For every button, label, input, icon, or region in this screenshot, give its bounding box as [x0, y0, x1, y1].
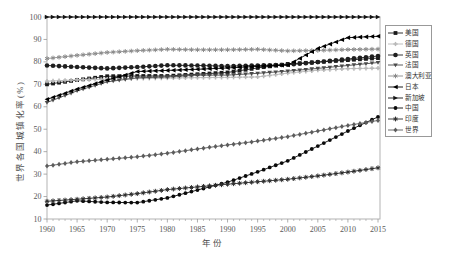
legend-label: 中国 — [405, 104, 418, 114]
legend-label: 法国 — [405, 61, 418, 71]
legend-label: 世界 — [405, 125, 418, 135]
x-tick-label: 2015 — [370, 225, 386, 234]
x-tick-label: 1980 — [159, 225, 175, 234]
series-世界 — [45, 118, 380, 169]
legend-item-法国: 法国 — [388, 60, 429, 70]
legend-item-德国: 德国 — [388, 39, 429, 49]
x-tick-label: 1995 — [250, 225, 266, 234]
legend-label: 美国 — [405, 28, 418, 38]
legend-label: 澳大利亚 — [405, 71, 432, 81]
legend-item-世界: 世界 — [388, 125, 429, 135]
series-新加坡 — [45, 15, 381, 20]
legend-label: 印度 — [405, 114, 418, 124]
legend-label: 英国 — [405, 50, 418, 60]
x-tick-label: 1985 — [189, 225, 205, 234]
legend-marker-icon — [388, 61, 403, 69]
x-tick-label: 2000 — [280, 225, 296, 234]
y-tick-label: 50 — [34, 125, 42, 134]
x-axis-title: 年份 — [202, 236, 224, 248]
y-tick-label: 80 — [34, 57, 42, 66]
legend-item-中国: 中国 — [388, 103, 429, 113]
legend-item-日本: 日本 — [388, 82, 429, 92]
x-tick-label: 1975 — [129, 225, 145, 234]
x-tick-label: 1970 — [99, 225, 115, 234]
legend-marker-icon — [388, 83, 403, 91]
plot-frame — [47, 17, 380, 219]
legend-item-英国: 英国 — [388, 50, 429, 60]
legend-marker-icon — [388, 126, 403, 134]
x-tick-label: 1990 — [220, 225, 236, 234]
y-tick-label: 100 — [30, 13, 42, 22]
legend-marker-icon — [388, 115, 403, 123]
urbanization-rate-line-chart: 1960196519701975198019851990199520002005… — [0, 0, 470, 262]
y-tick-label: 90 — [34, 35, 42, 44]
y-tick-label: 40 — [34, 147, 42, 156]
y-axis-title: 世界各国城镇化率(%) — [13, 81, 25, 182]
legend-marker-icon — [388, 51, 403, 59]
chart-legend: 美国德国英国法国澳大利亚日本新加坡中国印度世界 — [385, 25, 432, 137]
legend-item-新加坡: 新加坡 — [388, 93, 429, 103]
legend-marker-icon — [388, 29, 403, 37]
x-tick-label: 1965 — [69, 225, 85, 234]
x-tick-label: 2010 — [340, 225, 356, 234]
legend-marker-icon — [388, 94, 403, 102]
legend-marker-icon — [388, 72, 403, 80]
series-印度 — [45, 165, 380, 203]
legend-marker-icon — [388, 40, 403, 48]
legend-item-印度: 印度 — [388, 114, 429, 124]
y-tick-label: 60 — [34, 102, 42, 111]
x-tick-label: 2005 — [310, 225, 326, 234]
y-tick-label: 10 — [34, 215, 42, 224]
legend-label: 日本 — [405, 82, 418, 92]
legend-item-美国: 美国 — [388, 28, 429, 38]
legend-label: 新加坡 — [405, 93, 425, 103]
legend-item-澳大利亚: 澳大利亚 — [388, 71, 429, 81]
legend-label: 德国 — [405, 39, 418, 49]
legend-marker-icon — [388, 104, 403, 112]
x-tick-label: 1960 — [39, 225, 55, 234]
y-tick-label: 70 — [34, 80, 42, 89]
y-tick-label: 20 — [34, 192, 42, 201]
y-tick-label: 30 — [34, 170, 42, 179]
